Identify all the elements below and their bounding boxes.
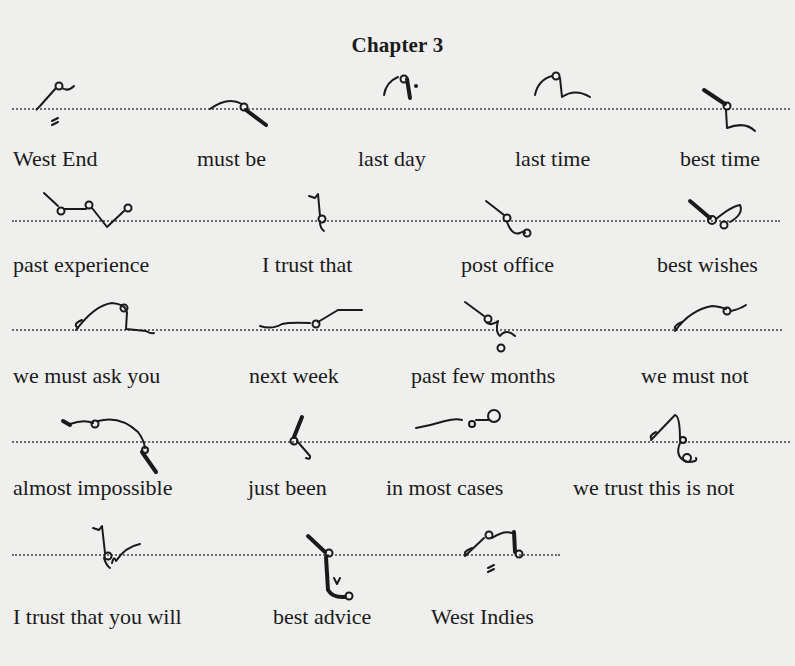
outline-west-indies <box>465 532 523 573</box>
outline-must-be <box>210 101 266 125</box>
outline-past-few-months <box>465 302 515 352</box>
term-label: past few months <box>411 365 555 387</box>
term-label: last day <box>358 148 426 170</box>
outline-in-most-cases <box>416 410 500 428</box>
term-label: just been <box>248 477 327 499</box>
textbook-page: Chapter 3 <box>0 0 795 666</box>
outline-best-time <box>704 90 755 131</box>
outline-last-day <box>384 76 418 99</box>
term-label: I trust that you will <box>13 606 182 628</box>
term-label: must be <box>197 148 266 170</box>
outline-i-trust-that <box>309 194 326 231</box>
term-label: past experience <box>13 254 149 276</box>
outline-i-trust-that-you-will <box>93 526 140 568</box>
outline-best-advice <box>308 536 353 600</box>
outline-next-week <box>260 310 362 328</box>
term-label: we must not <box>641 365 749 387</box>
term-label: West End <box>13 148 97 170</box>
term-label: in most cases <box>386 477 503 499</box>
outline-we-must-ask-you <box>76 303 154 333</box>
term-label: last time <box>515 148 590 170</box>
outline-west-end <box>36 83 74 126</box>
term-label: I trust that <box>262 254 352 276</box>
outline-past-experience <box>44 193 132 227</box>
term-label: West Indies <box>431 606 534 628</box>
outline-best-wishes <box>690 201 741 229</box>
outline-last-time <box>535 73 590 98</box>
term-label: best advice <box>273 606 371 628</box>
term-label: almost impossible <box>13 477 173 499</box>
term-label: post office <box>461 254 554 276</box>
outline-just-been <box>291 417 311 459</box>
term-label: best time <box>680 148 760 170</box>
outline-we-trust-this-is-not <box>651 415 697 462</box>
term-label: we trust this is not <box>573 477 734 499</box>
term-label: we must ask you <box>13 365 160 387</box>
shorthand-outlines <box>0 0 795 666</box>
term-label: best wishes <box>657 254 758 276</box>
term-label: next week <box>249 365 339 387</box>
outline-we-must-not <box>675 305 746 331</box>
outline-almost-impossible <box>63 419 156 472</box>
outline-post-office <box>486 201 531 237</box>
